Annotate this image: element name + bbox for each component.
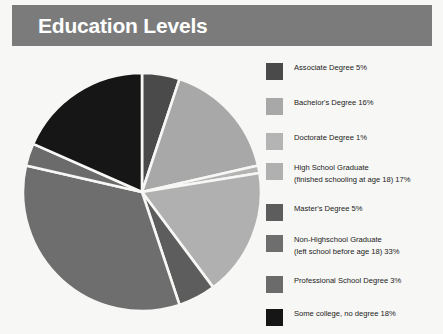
legend-label: Professional School Degree 3%	[294, 275, 401, 287]
pie-chart-svg	[22, 72, 262, 317]
legend-label-line1: Doctorate Degree 1%	[294, 133, 367, 142]
legend-label-line1: Associate Degree 5%	[294, 63, 367, 72]
legend-label-line1: Some college, no degree 18%	[294, 309, 396, 318]
legend-item: Non-Highschool Graduate(left school befo…	[266, 234, 400, 257]
legend-color-swatch	[266, 98, 283, 115]
pie-chart	[22, 72, 262, 317]
legend-item: Doctorate Degree 1%	[266, 132, 367, 150]
legend-label: Master's Degree 5%	[294, 203, 363, 215]
legend-label-line1: Professional School Degree 3%	[294, 276, 401, 285]
page-title: Education Levels	[38, 14, 208, 38]
legend-label: Bachelor's Degree 16%	[294, 97, 374, 109]
legend-label-line1: High School Graduate	[294, 163, 369, 172]
legend-color-swatch	[266, 133, 283, 150]
pie-slice-group	[23, 73, 261, 311]
legend-item: Master's Degree 5%	[266, 203, 363, 221]
legend-item: Bachelor's Degree 16%	[266, 97, 374, 115]
legend-color-swatch	[266, 235, 283, 252]
legend-label-line1: Master's Degree 5%	[294, 204, 363, 213]
legend-item: Professional School Degree 3%	[266, 275, 401, 293]
legend-label: Doctorate Degree 1%	[294, 132, 367, 144]
legend-color-swatch	[266, 163, 283, 180]
legend-label-line1: Bachelor's Degree 16%	[294, 98, 374, 107]
education-levels-figure: Education Levels Associate Degree 5%Bach…	[0, 0, 443, 334]
legend-color-swatch	[266, 276, 283, 293]
legend-item: Associate Degree 5%	[266, 62, 367, 80]
legend-label-line2: (left school before age 18) 33%	[294, 246, 400, 258]
legend-label: Non-Highschool Graduate(left school befo…	[294, 234, 400, 257]
legend-label-line1: Non-Highschool Graduate	[294, 235, 382, 244]
legend-label: Associate Degree 5%	[294, 62, 367, 74]
legend-label: Some college, no degree 18%	[294, 308, 396, 320]
legend-color-swatch	[266, 63, 283, 80]
legend-label-line2: (finished schooling at age 18) 17%	[294, 174, 411, 186]
legend-color-swatch	[266, 204, 283, 221]
header-bar: Education Levels	[12, 5, 432, 46]
legend-item: Some college, no degree 18%	[266, 308, 396, 326]
legend-label: High School Graduate(finished schooling …	[294, 162, 411, 185]
legend-item: High School Graduate(finished schooling …	[266, 162, 411, 185]
legend-color-swatch	[266, 309, 283, 326]
